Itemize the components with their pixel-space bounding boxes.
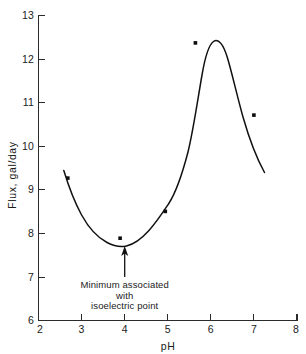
flux-vs-ph-chart: 13 12 11 10 9 8 7 6 2 3 4 5 6 7 8 [0, 0, 306, 354]
y-tick-label: 11 [23, 96, 34, 108]
y-tick-label: 8 [28, 227, 34, 239]
annotation-line: Minimum associated [81, 279, 169, 290]
y-tick-label: 6 [28, 314, 34, 326]
x-tick-label: 8 [293, 323, 299, 335]
x-tick-label: 4 [122, 323, 128, 335]
data-point-marker [66, 176, 70, 180]
x-tick-label: 7 [251, 323, 257, 335]
x-tick-label: 3 [79, 323, 85, 335]
annotation-line: with [115, 290, 133, 301]
y-tick-label: 13 [22, 9, 34, 21]
data-point-marker [194, 41, 198, 45]
annotation-line: isoelectric point [91, 300, 158, 311]
x-axis-title: pH [161, 340, 176, 352]
y-tick-label: 9 [28, 183, 34, 195]
data-point-marker [252, 113, 256, 117]
x-tick-label: 5 [165, 323, 171, 335]
y-tick-label: 7 [28, 271, 34, 283]
data-point-marker [118, 236, 122, 240]
data-point-marker [164, 210, 168, 214]
y-tick-label: 10 [22, 140, 34, 152]
x-tick-label: 6 [208, 323, 214, 335]
y-axis-title: Flux, gal/day [6, 141, 18, 208]
y-tick-label: 12 [22, 53, 34, 65]
x-tick-label: 2 [37, 323, 43, 335]
